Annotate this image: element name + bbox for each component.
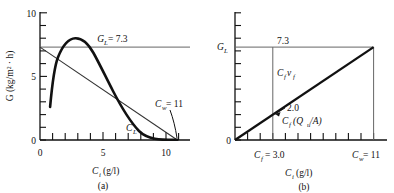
panel-a-annotation-cl-symbol: C bbox=[126, 123, 133, 133]
panel-b-cfqua-c: C bbox=[282, 116, 289, 126]
panel-b-annotation-cfvf: C f v f bbox=[277, 68, 296, 80]
panel-b-value-20: 2.0 bbox=[287, 103, 299, 113]
panel-b-x-axis-label: C i (g/l) bbox=[285, 168, 312, 180]
panel-b-cfqua-rest: (Q bbox=[293, 116, 303, 127]
panel-b-value-73: 7.3 bbox=[277, 36, 289, 46]
panel-b-cfqua-tail: /A) bbox=[309, 116, 322, 127]
panel-b-cw-symbol: C bbox=[352, 150, 359, 160]
panel-a-svg: 0 5 10 0 5 10 G (kg/m² · h) C i (g/l) G … bbox=[0, 0, 197, 193]
panel-a-caption: (a) bbox=[98, 181, 109, 192]
panel-a-y-axis-label: G (kg/m² · h) bbox=[5, 51, 16, 102]
panel-b-x-axis-label-sub: i bbox=[292, 173, 294, 180]
panel-a-x-axis-label-main: C bbox=[92, 166, 99, 176]
chart-panel-b: 0 G L 7.3 C f v f 2.0 C f (Q u bbox=[197, 0, 394, 193]
panel-b-cfvf-c: C bbox=[277, 68, 284, 78]
panel-b-cfvf-v: v bbox=[287, 68, 292, 78]
panel-b-gl-axis-label: G L bbox=[217, 42, 228, 54]
panel-b-x-ticks bbox=[248, 133, 374, 140]
panel-b-x-axis-label-units: (g/l) bbox=[296, 168, 312, 179]
panel-b-caption: (b) bbox=[298, 182, 309, 193]
panel-b-cf-symbol: C bbox=[254, 150, 261, 160]
panel-a-annotation-gl-value: = 7.3 bbox=[108, 34, 128, 44]
panel-b-cw-value: = 11 bbox=[363, 150, 380, 160]
panel-a-annotation-gl: G L = 7.3 bbox=[97, 34, 128, 46]
panel-a-annotation-cw-symbol: C bbox=[155, 99, 162, 109]
panel-a-xtick-5: 5 bbox=[101, 148, 106, 158]
panel-a-xtick-0: 0 bbox=[38, 148, 43, 158]
panel-a-annotation-cl-sub: L bbox=[132, 128, 137, 135]
panel-a-ytick-0: 0 bbox=[31, 136, 36, 146]
panel-a-cw-leader bbox=[170, 110, 177, 138]
panel-a-flux-curve bbox=[50, 38, 177, 140]
figure-container: 0 5 10 0 5 10 G (kg/m² · h) C i (g/l) G … bbox=[0, 0, 394, 193]
panel-b-annotation-cfqua: C f (Q u /A) bbox=[282, 116, 322, 128]
panel-b-ytick-0: 0 bbox=[226, 136, 231, 146]
panel-b-gl-axis-symbol: G bbox=[217, 42, 224, 52]
panel-a-operating-line bbox=[40, 47, 177, 140]
panel-b-annotation-cf: C f = 3.0 bbox=[254, 150, 285, 162]
panel-b-x-axis-label-main: C bbox=[285, 168, 292, 178]
chart-panel-a: 0 5 10 0 5 10 G (kg/m² · h) C i (g/l) G … bbox=[0, 0, 197, 193]
panel-a-x-axis-label-sub: i bbox=[99, 171, 101, 178]
panel-a-annotation-cw: C w = 11 bbox=[155, 99, 183, 111]
panel-a-xtick-10: 10 bbox=[161, 148, 171, 158]
panel-a-x-axis-label: C i (g/l) bbox=[92, 166, 119, 178]
panel-b-gl-axis-sub: L bbox=[223, 47, 228, 54]
panel-b-cfvf-v-sub: f bbox=[293, 73, 296, 80]
panel-a-x-axis-label-units: (g/l) bbox=[103, 166, 119, 177]
panel-a-annotation-cw-value: = 11 bbox=[166, 99, 183, 109]
panel-b-underflow-line bbox=[235, 47, 374, 140]
panel-a-ytick-5: 5 bbox=[31, 72, 36, 82]
panel-b-cf-value: = 3.0 bbox=[265, 150, 285, 160]
panel-b-y-ticks bbox=[235, 13, 241, 140]
panel-b-cf-sub: f bbox=[261, 155, 264, 162]
panel-a-ytick-10: 10 bbox=[27, 9, 37, 19]
panel-a-y-ticks bbox=[40, 13, 47, 140]
panel-b-cfqua-c-sub: f bbox=[289, 121, 292, 128]
panel-b-annotation-cw: C w = 11 bbox=[352, 150, 380, 162]
panel-b-svg: 0 G L 7.3 C f v f 2.0 C f (Q u bbox=[197, 0, 394, 193]
